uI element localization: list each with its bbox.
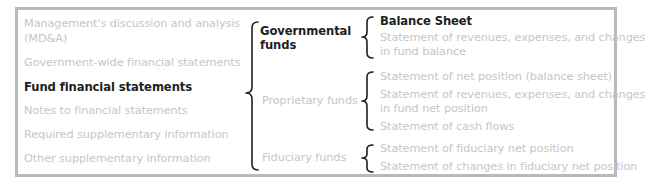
statement-gov-revenues-cont: in fund balance xyxy=(380,45,466,59)
statement-fiduciary-net-position: Statement of fiduciary net position xyxy=(380,142,574,156)
brace-icon-large xyxy=(246,22,258,170)
statement-balance-sheet: Balance Sheet xyxy=(380,14,472,28)
fund-governmental-cont: funds xyxy=(260,38,296,52)
fund-fiduciary: Fiduciary funds xyxy=(262,151,346,165)
statement-prop-revenues-cont: in fund net position xyxy=(380,102,488,116)
fund-governmental: Governmental xyxy=(260,24,351,38)
statement-net-position: Statement of net position (balance sheet… xyxy=(380,70,612,84)
fund-proprietary: Proprietary funds xyxy=(262,94,358,108)
statement-prop-revenues: Statement of revenues, expenses, and cha… xyxy=(380,88,645,102)
statement-changes-fiduciary: Statement of changes in fiduciary net po… xyxy=(380,160,637,174)
statement-cash-flows: Statement of cash flows xyxy=(380,120,514,134)
statement-gov-revenues: Statement of revenues, expenses, and cha… xyxy=(380,31,645,45)
brace-icon-fiduciary xyxy=(362,145,373,172)
brace-icon-proprietary xyxy=(362,72,373,130)
brace-icon-governmental xyxy=(362,17,373,58)
